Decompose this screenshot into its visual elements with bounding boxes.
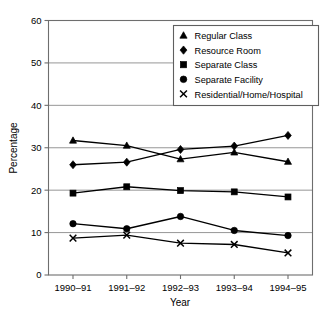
data-point xyxy=(70,161,77,169)
data-point xyxy=(70,137,77,143)
y-tick-label: 30 xyxy=(31,142,42,153)
y-tick-label: 50 xyxy=(31,57,42,68)
legend-item-label: Residential/Home/Hospital xyxy=(195,90,303,100)
legend-marker-square-icon xyxy=(180,62,186,68)
data-point xyxy=(285,232,291,238)
x-tick-label: 1990–91 xyxy=(55,282,92,293)
y-tick-label: 60 xyxy=(31,15,42,26)
data-point xyxy=(124,226,130,232)
series-separate-facility xyxy=(70,213,291,239)
data-point xyxy=(231,227,237,233)
data-point xyxy=(177,145,184,153)
x-axis-ticks xyxy=(73,275,288,279)
x-tick-label: 1993–94 xyxy=(216,282,253,293)
legend-marker-circle-icon xyxy=(180,76,187,83)
legend-item-label: Resource Room xyxy=(195,46,262,56)
data-point xyxy=(124,184,130,190)
legend-item-label: Separate Facility xyxy=(195,75,264,85)
series-resource-room xyxy=(70,131,292,168)
y-axis-ticks xyxy=(45,21,49,276)
y-tick-label: 40 xyxy=(31,100,42,111)
legend-item-label: Separate Class xyxy=(195,60,258,70)
data-point xyxy=(70,190,76,196)
legend-item-label: Regular Class xyxy=(195,31,253,41)
series-layer xyxy=(70,131,292,256)
y-axis-tick-labels: 0102030405060 xyxy=(31,15,42,281)
series-separate-class xyxy=(70,184,291,200)
x-tick-label: 1991–92 xyxy=(108,282,145,293)
x-axis-tick-labels: 1990–911991–921992–931993–941994–95 xyxy=(55,282,307,293)
y-tick-label: 0 xyxy=(36,269,41,280)
data-point xyxy=(70,220,76,226)
chart-legend: Regular ClassResource RoomSeparate Class… xyxy=(174,26,319,106)
data-point xyxy=(177,213,183,219)
series-residential-home-hospital xyxy=(70,232,292,256)
data-point xyxy=(285,131,292,139)
legend-item: Residential/Home/Hospital xyxy=(180,90,303,100)
x-tick-label: 1992–93 xyxy=(162,282,199,293)
x-axis-title: Year xyxy=(170,297,191,308)
chart-canvas: 0102030405060 1990–911991–921992–931993–… xyxy=(0,0,333,321)
data-point xyxy=(231,142,238,150)
y-tick-label: 20 xyxy=(31,185,42,196)
data-point xyxy=(123,158,130,166)
data-point xyxy=(231,189,237,195)
y-tick-label: 10 xyxy=(31,227,42,238)
line-chart: 0102030405060 1990–911991–921992–931993–… xyxy=(0,0,333,321)
y-axis-title: Percentage xyxy=(8,122,19,174)
x-tick-label: 1994–95 xyxy=(270,282,307,293)
data-point xyxy=(285,194,291,200)
data-point xyxy=(178,188,184,194)
